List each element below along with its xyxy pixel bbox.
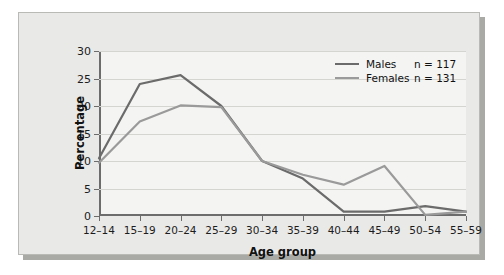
x-tick-label: 12–14	[83, 224, 115, 236]
legend-swatch-icon	[335, 63, 359, 65]
x-tick-label: 25–29	[205, 224, 237, 236]
y-axis-title: Percentage	[73, 96, 87, 170]
legend-item-females: Femalesn = 131	[335, 71, 467, 85]
x-tick-mark	[221, 216, 222, 221]
x-tick-mark	[466, 216, 467, 221]
x-tick-mark	[344, 216, 345, 221]
chart-card: 051015202530 12–1415–1920–2425–2930–3435…	[18, 12, 480, 255]
y-tick-label: 5	[84, 182, 91, 195]
legend-label: Females	[366, 72, 414, 84]
x-tick-mark	[99, 216, 100, 221]
y-tick-label: 0	[84, 210, 91, 223]
x-tick-label: 50–54	[409, 224, 441, 236]
x-tick-mark	[181, 216, 182, 221]
legend-label: Males	[366, 58, 414, 70]
x-tick-mark	[303, 216, 304, 221]
figure-root: 051015202530 12–1415–1920–2425–2930–3435…	[0, 0, 504, 275]
x-tick-mark	[140, 216, 141, 221]
legend-item-males: Malesn = 117	[335, 57, 467, 71]
chart-legend: Malesn = 117Femalesn = 131	[335, 57, 467, 85]
legend-swatch-icon	[335, 77, 359, 79]
y-tick-label: 25	[77, 72, 91, 85]
x-tick-mark	[425, 216, 426, 221]
series-line-females	[99, 105, 466, 214]
x-tick-label: 55–59	[450, 224, 482, 236]
x-tick-label: 40–44	[328, 224, 360, 236]
x-tick-label: 35–39	[287, 224, 319, 236]
legend-sample-size: n = 117	[414, 58, 456, 70]
y-tick-label: 30	[77, 45, 91, 58]
x-tick-mark	[262, 216, 263, 221]
series-line-males	[99, 75, 466, 211]
x-axis-title: Age group	[99, 245, 466, 259]
legend-sample-size: n = 131	[414, 72, 456, 84]
x-tick-label: 30–34	[246, 224, 278, 236]
x-tick-label: 45–49	[368, 224, 400, 236]
x-tick-mark	[384, 216, 385, 221]
x-tick-label: 15–19	[124, 224, 156, 236]
x-tick-label: 20–24	[165, 224, 197, 236]
